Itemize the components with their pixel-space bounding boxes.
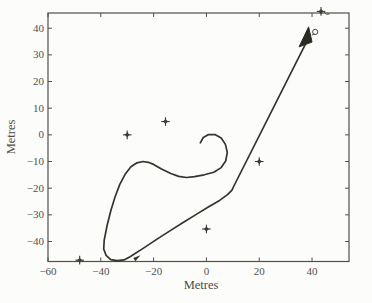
arrowhead-loop-squiggle [313,29,318,34]
data-point-marker [202,225,211,234]
y-tick-label: −30 [27,208,45,220]
data-point-marker [317,7,326,16]
x-tick-label: −20 [145,265,163,277]
trajectory-layer [104,27,318,261]
y-tick-label: −40 [27,235,45,247]
data-point-marker [123,131,132,140]
x-tick-label: 20 [254,265,266,277]
arrowhead-icon [299,27,312,47]
y-tick-label: 40 [33,22,45,34]
y-tick-label: 30 [33,48,45,60]
data-point-marker [75,256,84,265]
x-tick-label: −60 [39,265,57,277]
x-axis-label: Metres [184,278,219,292]
y-tick-label: 0 [39,128,45,140]
trajectory-plot: −60−40−2002040−40−30−20−10010203040 Metr… [0,0,372,303]
x-tick-label: 40 [307,265,319,277]
trajectory-junction-nub [133,255,140,261]
axis-box [48,13,349,262]
y-tick-label: −10 [27,155,45,167]
x-tick-label: 0 [204,265,210,277]
trajectory-figure: −60−40−2002040−40−30−20−10010203040 Metr… [0,0,372,303]
data-point-marker [255,157,264,166]
y-tick-label: 10 [33,102,45,114]
marker-layer [75,7,329,264]
y-axis-label: Metres [4,120,18,155]
trajectory-path [104,44,306,261]
x-tick-label: −40 [92,265,110,277]
data-point-marker [161,117,170,126]
y-tick-label: −20 [27,182,45,194]
y-tick-label: 20 [33,75,45,87]
